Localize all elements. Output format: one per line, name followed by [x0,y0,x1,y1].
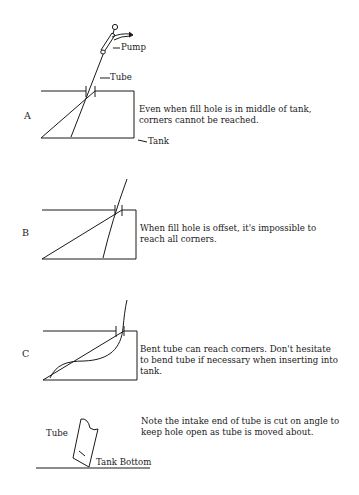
tube-b [103,179,127,258]
panel-letter-a: A [24,110,31,121]
panel-letter-c: C [22,348,29,359]
tube-end-label: Tube [46,428,68,439]
tank-a [41,91,134,138]
tank-bottom-label: Tank Bottom [96,457,151,468]
tube-c [50,300,127,378]
tank-c [43,331,137,380]
tank-b [42,210,136,259]
tank-leader [138,140,147,142]
caption-b: When fill hole is offset, it's impossibl… [140,223,340,245]
tube-end [73,419,98,467]
panel-letter-b: B [22,227,29,238]
pump-icon [101,33,115,52]
pump-label: Pump [121,42,146,53]
tank-label: Tank [148,136,169,147]
caption-c: Bent tube can reach corners. Don't hesit… [140,344,340,377]
panel-b-drawing [42,179,136,259]
tube-label: Tube [110,72,132,83]
caption-a: Even when fill hole is in middle of tank… [139,104,344,126]
tube-a [71,52,104,137]
panel-c-drawing [43,300,137,380]
caption-d: Note the intake end of tube is cut on an… [141,416,341,438]
